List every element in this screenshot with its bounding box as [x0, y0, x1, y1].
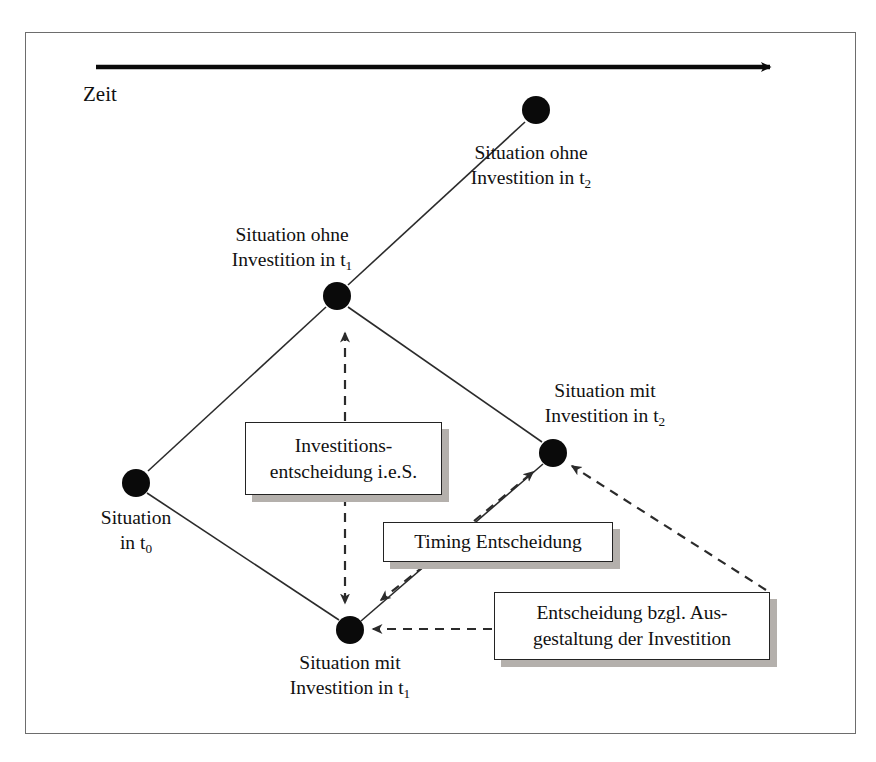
- node-situation-mit-investition-t1[interactable]: [336, 616, 364, 644]
- diagram-canvas: Zeit Situation in t0 Situation ohne Inve…: [0, 0, 876, 762]
- node-label-line1: Situation mit: [490, 378, 720, 403]
- callout-line2: gestaltung der Investition: [533, 626, 731, 652]
- node-label-situation-t0: Situation in t0: [56, 505, 216, 561]
- callout-line1: Timing Entscheidung: [414, 529, 582, 555]
- node-label-line1: Situation ohne: [177, 222, 407, 247]
- node-label-line2: Investition in t2: [416, 165, 646, 196]
- callout-ausgestaltung[interactable]: Entscheidung bzgl. Aus- gestaltung der I…: [494, 592, 770, 660]
- node-label-line2: Investition in t1: [235, 675, 465, 706]
- callout-line1: Investitions-: [270, 433, 417, 459]
- node-label-situation-mit-investition-t1: Situation mit Investition in t1: [235, 650, 465, 706]
- time-axis-label: Zeit: [83, 82, 117, 107]
- callout-investitionsentscheidung[interactable]: Investitions- entscheidung i.e.S.: [245, 422, 442, 495]
- callout-line1: Entscheidung bzgl. Aus-: [533, 600, 731, 626]
- node-situation-t0[interactable]: [122, 469, 150, 497]
- node-label-line2: Investition in t1: [177, 247, 407, 278]
- callout-line2: entscheidung i.e.S.: [270, 459, 417, 485]
- node-label-situation-mit-investition-t2: Situation mit Investition in t2: [490, 378, 720, 434]
- node-label-line1: Situation mit: [235, 650, 465, 675]
- node-label-line2: in t0: [56, 530, 216, 561]
- node-label-situation-ohne-investition-t1: Situation ohne Investition in t1: [177, 222, 407, 278]
- node-label-line1: Situation: [56, 505, 216, 530]
- node-label-line2: Investition in t2: [490, 403, 720, 434]
- node-situation-mit-investition-t2[interactable]: [539, 439, 567, 467]
- callout-timing-entscheidung[interactable]: Timing Entscheidung: [383, 522, 613, 562]
- node-label-line1: Situation ohne: [416, 140, 646, 165]
- node-label-situation-ohne-investition-t2: Situation ohne Investition in t2: [416, 140, 646, 196]
- node-situation-ohne-investition-t1[interactable]: [323, 282, 351, 310]
- node-situation-ohne-investition-t2[interactable]: [522, 96, 550, 124]
